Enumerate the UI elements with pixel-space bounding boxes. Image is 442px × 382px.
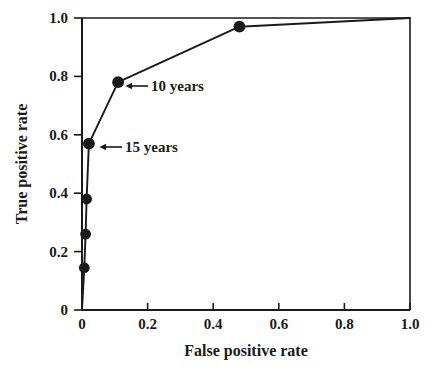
x-tick-label-0-2: 0.2	[138, 316, 157, 333]
x-tick-label-0: 0	[78, 316, 86, 333]
x-tick-label-1-0: 1.0	[401, 316, 420, 333]
annotation-15-years: 15 years	[125, 139, 178, 156]
roc-curve-line	[82, 18, 410, 310]
y-tick-label-1-0: 1.0	[28, 10, 68, 27]
roc-curve-figure: 0 0.2 0.4 0.6 0.8 1.0 0 0.2 0.4 0.6 0.8 …	[0, 0, 442, 382]
arrow-10-years	[126, 83, 149, 89]
x-tick-label-0-8: 0.8	[335, 316, 354, 333]
y-tick-label-0: 0	[38, 302, 68, 319]
y-tick-label-0-8: 0.8	[28, 68, 68, 85]
x-tick-label-0-6: 0.6	[269, 316, 288, 333]
data-point	[234, 21, 246, 33]
x-axis-ticks	[82, 303, 410, 310]
y-tick-label-0-2: 0.2	[28, 243, 68, 260]
y-tick-label-0-4: 0.4	[28, 185, 68, 202]
x-tick-label-0-4: 0.4	[204, 316, 223, 333]
x-axis-title: False positive rate	[184, 342, 308, 360]
data-point	[80, 229, 91, 240]
data-point-10-years	[112, 76, 124, 88]
axis-frame	[82, 18, 410, 310]
annotation-10-years: 10 years	[151, 78, 204, 95]
data-point	[79, 262, 90, 273]
y-axis-title: True positive rate	[13, 104, 31, 225]
data-point	[81, 194, 92, 205]
arrow-15-years	[100, 144, 123, 150]
data-point-15-years	[83, 138, 95, 150]
y-tick-label-0-6: 0.6	[28, 126, 68, 143]
